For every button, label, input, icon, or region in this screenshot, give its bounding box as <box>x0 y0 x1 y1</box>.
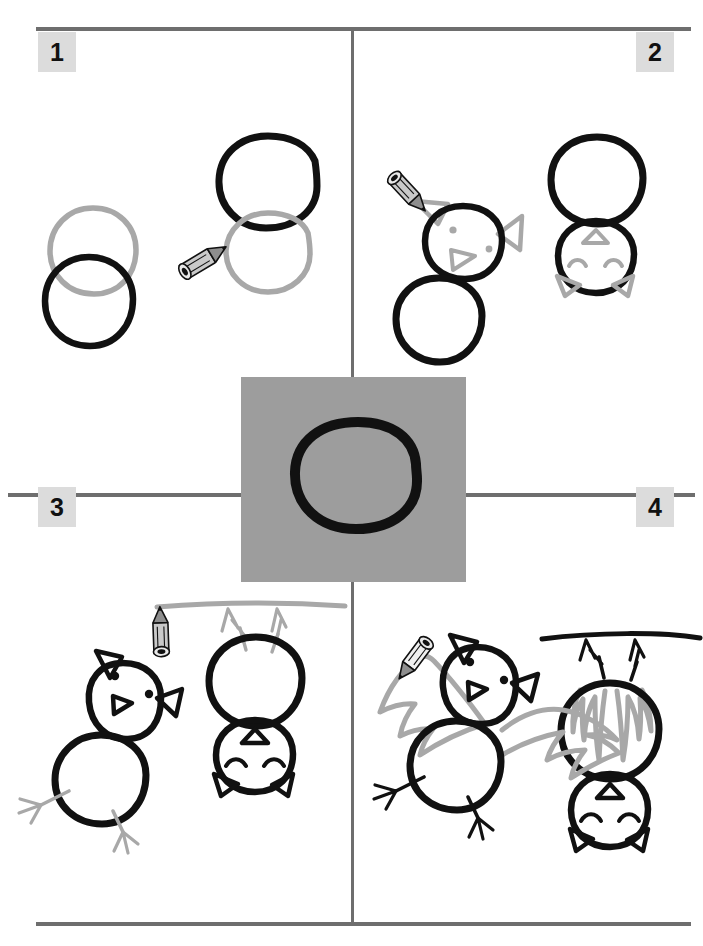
hanging-closed-eye-left <box>581 814 601 821</box>
body-circle <box>396 278 482 362</box>
foot-right <box>469 818 493 839</box>
tree-branch-gray <box>157 603 345 607</box>
pencil-icon <box>385 169 431 216</box>
hanging-bat-body <box>209 637 302 726</box>
hanging-triangle-nose <box>597 784 623 798</box>
tree-branch <box>542 634 700 639</box>
hanging-ear-left <box>214 774 238 796</box>
hanging-triangle-nose-gray <box>583 230 608 243</box>
pencil-icon <box>152 606 170 657</box>
highlight-tile <box>241 377 466 582</box>
foot-left <box>374 785 396 809</box>
eye-right-gray <box>486 246 493 253</box>
eye-left-gray <box>449 226 456 233</box>
hanging-closed-eye-right <box>264 759 284 766</box>
highlight-tile-circle <box>241 377 466 582</box>
head-circle <box>425 206 502 279</box>
triangle-nose-gray <box>451 250 475 270</box>
standing-eye-left <box>466 658 474 666</box>
standing-body-circle <box>55 735 146 824</box>
foot-right-gray <box>114 832 138 853</box>
standing-triangle-mouth <box>468 682 487 700</box>
standing-eye-right <box>500 676 508 684</box>
hanging-closed-eye-right <box>619 814 639 821</box>
hanging-bat-body-circle <box>551 137 643 224</box>
guide-circle-left <box>50 208 136 294</box>
standing-eye-left <box>111 672 119 680</box>
standing-triangle-mouth <box>113 696 132 714</box>
hanging-closed-eye-left <box>226 759 246 766</box>
basic-circle-shape <box>295 422 417 529</box>
pencil-icon <box>176 240 230 282</box>
hanging-triangle-nose <box>242 729 268 743</box>
body-circle-left <box>45 257 133 346</box>
standing-eye-right <box>145 690 153 698</box>
wing-left-gray <box>380 656 485 755</box>
closed-eye-right-gray <box>605 260 622 266</box>
tutorial-sheet: 1 2 3 4 <box>0 0 703 946</box>
closed-eye-left-gray <box>569 260 586 266</box>
foot-left-gray <box>19 799 41 823</box>
hanging-leg-left <box>599 657 604 678</box>
